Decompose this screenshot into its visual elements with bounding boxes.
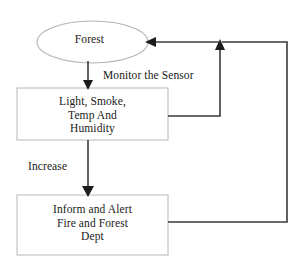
edge-forest-to-sensor — [83, 61, 93, 90]
forest-node-label: Forest — [37, 33, 142, 47]
alert-node-label: Inform and Alert Fire and Forest Dept — [25, 203, 160, 244]
edge-label-increase: Increase — [28, 160, 67, 172]
flow-diagram: Forest Light, Smoke, Temp And Humidity I… — [0, 0, 303, 271]
sensor-node-label: Light, Smoke, Temp And Humidity — [25, 95, 160, 136]
edge-label-monitor-the-sensor: Monitor the Sensor — [103, 69, 194, 81]
edge-sensor-to-alert — [82, 140, 94, 197]
